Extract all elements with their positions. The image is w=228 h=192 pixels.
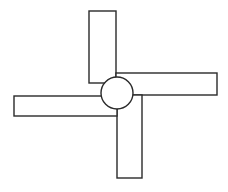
- pinwheel-diagram: [0, 0, 228, 192]
- blade-top: [89, 11, 116, 83]
- hub-circle: [101, 77, 133, 109]
